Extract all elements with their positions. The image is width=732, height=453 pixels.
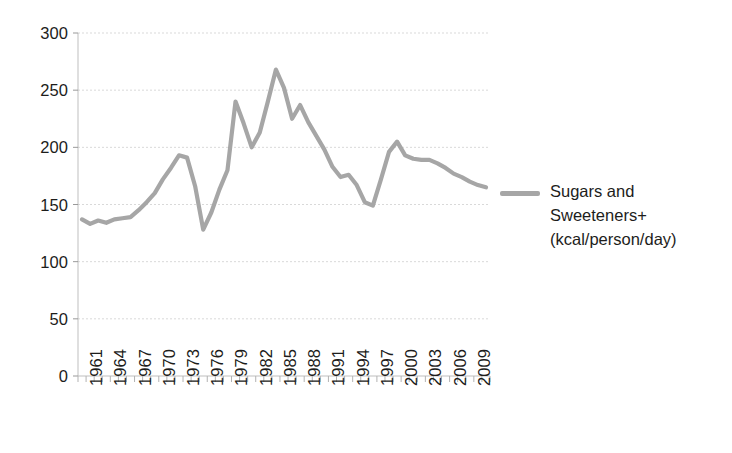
x-tick-label: 1985 — [282, 349, 299, 386]
x-tick-label: 1967 — [137, 349, 154, 386]
x-tick-label: 1976 — [209, 349, 226, 386]
x-tick-label: 2009 — [476, 349, 493, 386]
legend-color-swatch — [500, 191, 540, 196]
x-tick-label: 1994 — [355, 349, 372, 386]
chart-container: 300250200150100500 196119641967197019731… — [0, 0, 732, 453]
x-tick-label: 2000 — [403, 349, 420, 386]
x-tick-label: 1961 — [88, 349, 105, 386]
x-tick-label: 1970 — [161, 349, 178, 386]
x-tick-label: 2006 — [452, 349, 469, 386]
x-tick-label: 1997 — [379, 349, 396, 386]
x-tick-label: 1964 — [112, 349, 129, 386]
x-tick-label: 1991 — [330, 349, 347, 386]
x-tick-label: 1973 — [185, 349, 202, 386]
legend-label-line-1: Sugars and — [550, 180, 677, 204]
x-tick-label: 1979 — [233, 349, 250, 386]
legend-label: Sugars and Sweeteners+ (kcal/person/day) — [550, 180, 677, 252]
x-tick-label: 2003 — [427, 349, 444, 386]
x-tick-label: 1988 — [306, 349, 323, 386]
legend-label-line-2: Sweeteners+ — [550, 204, 677, 228]
x-tick-label: 1982 — [258, 349, 275, 386]
legend-label-line-3: (kcal/person/day) — [550, 228, 677, 252]
chart-legend: Sugars and Sweeteners+ (kcal/person/day) — [500, 180, 677, 252]
